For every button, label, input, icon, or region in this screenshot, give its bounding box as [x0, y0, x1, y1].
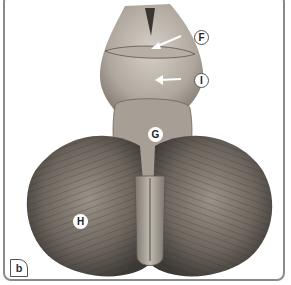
panel-label-text: b	[16, 262, 23, 274]
panel-label: b	[10, 259, 28, 277]
label-h: H	[73, 214, 88, 229]
label-i: I	[194, 73, 209, 88]
brain-specimen-photo	[5, 0, 285, 281]
figure-frame: F I G H b	[3, 0, 285, 281]
label-g: G	[148, 127, 163, 142]
label-f: F	[194, 30, 209, 45]
label-g-text: G	[152, 129, 160, 140]
label-i-text: I	[200, 75, 203, 86]
label-f-text: F	[198, 32, 204, 43]
label-h-text: H	[77, 216, 84, 227]
